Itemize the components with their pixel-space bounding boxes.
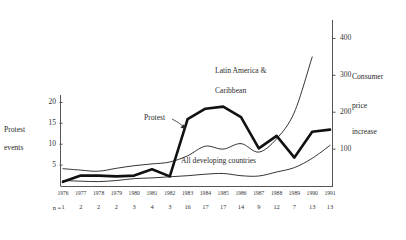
right-tick-label: 200 [340, 107, 362, 116]
left-tick-label: 20 [36, 97, 56, 106]
x-tick-label: 1986 [232, 190, 250, 196]
n-value: 2 [72, 203, 90, 210]
x-tick-label: 1979 [107, 190, 125, 196]
n-value: 17 [214, 203, 232, 210]
series-line-2 [63, 57, 312, 171]
n-value: 2 [107, 203, 125, 210]
right-axis-title-line3: increase [352, 127, 377, 136]
left-axis-title-line2: events [4, 143, 23, 152]
x-tick-label: 1990 [303, 190, 321, 196]
n-row-label: n = [46, 204, 68, 211]
n-value: 13 [303, 203, 321, 210]
n-value: 16 [179, 203, 197, 210]
left-tick-label: 15 [36, 118, 56, 127]
x-tick-label: 1991 [321, 190, 339, 196]
n-value: 3 [161, 203, 179, 210]
x-tick-label: 1988 [268, 190, 286, 196]
x-tick-label: 1980 [125, 190, 143, 196]
n-value: 2 [90, 203, 108, 210]
n-value: 17 [196, 203, 214, 210]
left-tick-label: 10 [36, 139, 56, 148]
n-value: 12 [268, 203, 286, 210]
annotation-all-developing-countries: All developing countries [181, 156, 256, 165]
x-tick-label: 1985 [214, 190, 232, 196]
x-tick-label: 1982 [161, 190, 179, 196]
x-tick-label: 1983 [179, 190, 197, 196]
annotation-latin-america-line2: Caribbean [215, 86, 246, 95]
x-tick-label: 1977 [72, 190, 90, 196]
annotation-latin-america-line1: Latin America & [215, 66, 266, 75]
n-value: 9 [250, 203, 268, 210]
n-value: 3 [125, 203, 143, 210]
right-tick-label: 100 [340, 144, 362, 153]
right-tick-label: 400 [340, 33, 362, 42]
x-tick-label: 1989 [285, 190, 303, 196]
x-tick-label: 1978 [90, 190, 108, 196]
right-tick-label: 300 [340, 70, 362, 79]
left-axis-title-line1: Protest [4, 125, 25, 134]
n-value: 4 [143, 203, 161, 210]
n-value: 7 [285, 203, 303, 210]
left-tick-label: 5 [36, 160, 56, 169]
annotation-protest: Protest [144, 113, 165, 122]
x-tick-label: 1976 [54, 190, 72, 196]
x-tick-label: 1984 [196, 190, 214, 196]
x-tick-label: 1981 [143, 190, 161, 196]
n-value: 14 [232, 203, 250, 210]
n-value: 13 [321, 203, 339, 210]
x-tick-label: 1987 [250, 190, 268, 196]
